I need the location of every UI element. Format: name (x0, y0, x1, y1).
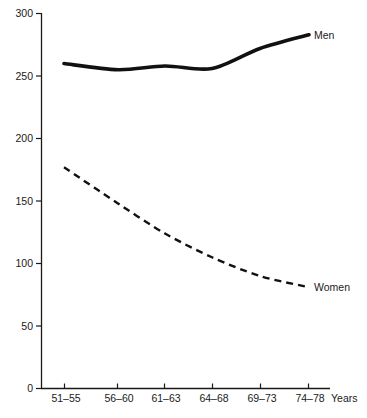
y-tick-label-300: 300 (15, 7, 33, 19)
y-tick-label-150: 150 (15, 195, 33, 207)
men-series-label: Men (314, 29, 335, 41)
x-tick-label-1: 51–55 (51, 392, 80, 404)
women-series-label: Women (314, 281, 350, 293)
x-tick-label-4: 64–68 (199, 392, 228, 404)
x-tick-label-2: 56–60 (104, 392, 133, 404)
chart-background (0, 0, 367, 418)
y-tick-label-50: 50 (21, 320, 33, 332)
y-tick-label-0: 0 (27, 382, 33, 394)
line-chart: 300 250 200 150 100 50 0 51–55 56–60 61–… (0, 0, 367, 418)
x-tick-label-6: 74–78 (295, 392, 324, 404)
x-axis-unit-label: Years (331, 392, 357, 404)
x-tick-label-5: 69–73 (247, 392, 276, 404)
y-tick-label-100: 100 (15, 257, 33, 269)
chart-container: 300 250 200 150 100 50 0 51–55 56–60 61–… (0, 0, 367, 418)
x-tick-label-3: 61–63 (151, 392, 180, 404)
y-tick-label-250: 250 (15, 70, 33, 82)
y-tick-label-200: 200 (15, 132, 33, 144)
